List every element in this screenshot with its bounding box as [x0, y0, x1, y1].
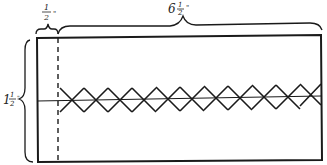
length-label: 6 1 2 " — [168, 1, 189, 17]
half-inch-label: 1 2 " — [42, 3, 56, 22]
half-inch-unit: " — [53, 10, 56, 18]
height-den: 2 — [9, 100, 15, 108]
height-unit: " — [17, 94, 20, 101]
height-brace — [19, 40, 33, 162]
half-inch-den: 2 — [43, 13, 49, 22]
cross-stitch-row — [60, 84, 321, 112]
length-num: 1 — [178, 1, 182, 9]
half-inch-num: 1 — [44, 3, 49, 12]
center-line — [37, 96, 321, 101]
length-den: 2 — [177, 9, 183, 17]
height-label: 1 1 2 " — [3, 91, 20, 108]
pattern-diagram: 1 2 " 6 1 2 " 1 1 2 " — [0, 0, 327, 165]
half-inch-brace — [36, 24, 58, 34]
length-unit: " — [186, 4, 189, 12]
length-brace — [58, 16, 322, 34]
length-whole: 6 — [168, 2, 176, 16]
height-num: 1 — [10, 91, 14, 99]
